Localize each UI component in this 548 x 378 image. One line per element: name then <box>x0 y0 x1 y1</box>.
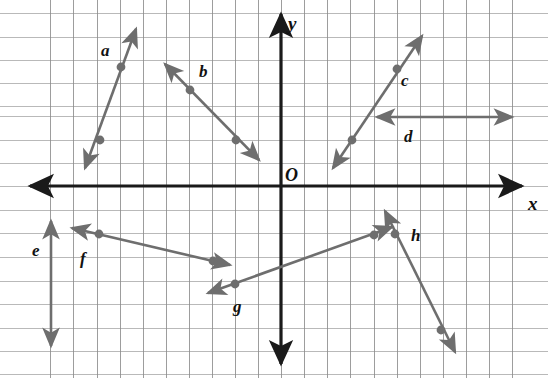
line-label-d: d <box>404 128 413 145</box>
point-on-line-b <box>186 86 195 95</box>
x-axis-label: x <box>528 194 538 213</box>
line-label-g: g <box>233 298 242 315</box>
point-on-line-f <box>95 230 104 239</box>
point-on-line-h <box>391 230 400 239</box>
point-on-line-g <box>231 280 240 289</box>
line-label-a: a <box>101 42 110 59</box>
point-on-line-g <box>370 231 379 240</box>
point-on-line-h <box>437 326 446 335</box>
point-on-line-a <box>96 136 105 145</box>
point-on-line-f <box>209 257 218 266</box>
point-on-line-c <box>348 136 357 145</box>
line-label-f: f <box>80 250 86 267</box>
line-c <box>333 36 422 168</box>
line-label-b: b <box>199 63 208 80</box>
origin-label: O <box>285 166 298 184</box>
line-label-c: c <box>401 72 409 89</box>
y-axis-label: y <box>288 14 296 33</box>
coordinate-plane-svg <box>0 0 548 378</box>
point-on-line-b <box>232 136 241 145</box>
line-label-e: e <box>32 242 40 259</box>
point-on-line-a <box>117 63 126 72</box>
grid-lines <box>0 0 548 378</box>
figure-canvas: y x O a b c d e f g h <box>0 0 548 378</box>
axes <box>30 14 522 364</box>
line-a <box>85 29 136 168</box>
line-label-h: h <box>411 227 420 244</box>
